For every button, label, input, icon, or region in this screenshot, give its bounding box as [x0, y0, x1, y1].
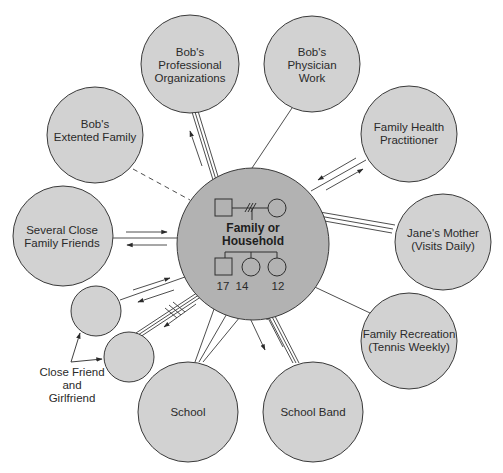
- label-janes-mother-2: (Visits Daily): [411, 240, 475, 252]
- label-health-practitioner-2: Practitioner: [380, 134, 438, 146]
- household-label-line2: Household: [222, 234, 284, 248]
- annotation-arrows: [71, 333, 102, 362]
- label-school-band: School Band: [280, 406, 345, 418]
- bob-male-symbol: [215, 199, 232, 216]
- label-school: School: [170, 406, 205, 418]
- annotation-line2: and: [62, 379, 81, 391]
- child-12-female-symbol: [268, 258, 286, 276]
- label-health-practitioner-1: Family Health: [374, 121, 444, 133]
- connection-extended-family: [133, 169, 190, 200]
- connection-close-family-friends: [113, 232, 178, 245]
- label-janes-mother-1: Jane's Mother: [407, 227, 479, 239]
- label-family-recreation-1: Family Recreation: [363, 328, 456, 340]
- child-17-male-symbol: [215, 258, 232, 275]
- label-family-recreation-2: (Tennis Weekly): [368, 341, 450, 353]
- node-close-friend: [71, 286, 121, 336]
- label-professional-organizations-2: Professional: [158, 59, 221, 71]
- connection-health-practitioner: [311, 158, 366, 191]
- label-physician-work-3: Work: [299, 72, 326, 84]
- label-professional-organizations-1: Bob's: [176, 46, 205, 58]
- annotation-line1: Close Friend: [39, 366, 104, 378]
- age-14: 14: [236, 280, 249, 292]
- label-close-family-friends-1: Several Close: [26, 224, 98, 236]
- age-17: 17: [217, 280, 230, 292]
- label-extended-family-2: Extented Family: [54, 131, 137, 143]
- age-12: 12: [272, 280, 285, 292]
- label-extended-family-1: Bob's: [81, 118, 110, 130]
- label-physician-work-1: Bob's: [298, 46, 327, 58]
- annotation-line3: Girlfriend: [49, 392, 96, 404]
- jane-female-symbol: [268, 199, 286, 217]
- node-several-close-family-friends: [13, 186, 113, 286]
- child-14-female-symbol: [242, 258, 260, 276]
- label-physician-work-2: Physician: [287, 59, 336, 71]
- ecomap-diagram: Family or Household 17 14 12 Bob's Profe…: [0, 0, 503, 473]
- node-girlfriend: [104, 332, 154, 382]
- label-close-family-friends-2: Family Friends: [24, 237, 100, 249]
- label-professional-organizations-3: Organizations: [155, 72, 226, 84]
- household-label-line1: Family or: [226, 221, 280, 235]
